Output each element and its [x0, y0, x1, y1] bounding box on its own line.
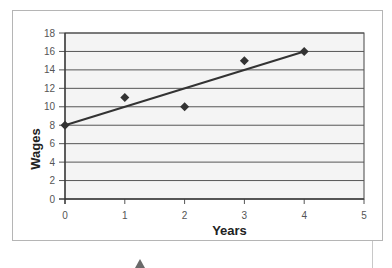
y-tick-label: 6: [49, 138, 55, 149]
x-tick-label: 2: [182, 210, 188, 221]
y-tick-label: 18: [44, 28, 56, 39]
plot-area: [65, 33, 364, 199]
x-tick-label: 3: [242, 210, 248, 221]
x-tick-label: 1: [122, 210, 128, 221]
x-axis-ticks: 012345: [62, 199, 367, 221]
y-tick-label: 14: [44, 64, 56, 75]
y-tick-label: 16: [44, 46, 56, 57]
scatter-chart: 024681012141618 012345 Years Wages: [0, 0, 392, 268]
x-tick-label: 5: [361, 210, 367, 221]
y-tick-label: 8: [49, 120, 55, 131]
y-tick-label: 4: [49, 157, 55, 168]
y-tick-label: 10: [44, 101, 56, 112]
y-tick-label: 0: [49, 194, 55, 205]
y-tick-label: 2: [49, 175, 55, 186]
x-tick-label: 0: [62, 210, 68, 221]
x-axis-title: Years: [212, 223, 247, 238]
y-axis-title: Wages: [28, 128, 43, 169]
y-tick-label: 12: [44, 83, 56, 94]
y-axis-ticks: 024681012141618: [44, 28, 65, 205]
x-tick-label: 4: [301, 210, 307, 221]
